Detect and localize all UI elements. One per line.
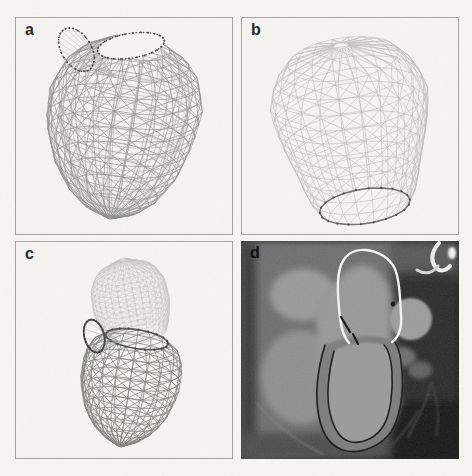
panel-label-a: a: [25, 21, 34, 39]
panel-label-c: c: [25, 245, 34, 263]
left-atrium-mesh-figure: [242, 18, 458, 234]
left-ventricle-mesh-figure: [16, 18, 232, 234]
figure-grid: a b c d: [15, 17, 459, 459]
panel-b: b: [241, 17, 459, 235]
combined-mesh-figure: [16, 242, 232, 458]
ct-slice-figure: [241, 241, 459, 459]
panel-label-b: b: [251, 21, 261, 39]
panel-label-d: d: [250, 244, 260, 262]
panel-c: c: [15, 241, 233, 459]
panel-a: a: [15, 17, 233, 235]
panel-d: d: [241, 241, 459, 459]
